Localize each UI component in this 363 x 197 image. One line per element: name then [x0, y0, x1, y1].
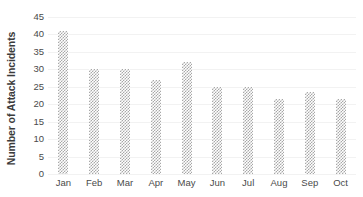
bar-series — [48, 17, 356, 174]
bar[interactable] — [274, 99, 284, 174]
y-axis-tick-label: 20 — [22, 99, 44, 109]
y-axis-tick-label: 25 — [22, 82, 44, 92]
y-axis-tick-label: 35 — [22, 47, 44, 57]
y-axis-tick-label: 45 — [22, 12, 44, 22]
x-axis-tick-label: Mar — [110, 176, 141, 192]
bar[interactable] — [89, 69, 99, 174]
bar[interactable] — [151, 80, 161, 174]
x-axis-tick-label: Oct — [325, 176, 356, 192]
gridline — [48, 174, 356, 175]
y-axis-tick-label: 5 — [22, 152, 44, 162]
bar[interactable] — [58, 31, 68, 174]
y-axis-title: Number of Attack Incidents — [0, 0, 22, 197]
plot-area — [48, 17, 356, 174]
bar-chart: Number of Attack Incidents 0510152025303… — [0, 0, 363, 197]
y-axis-tick-label: 40 — [22, 29, 44, 39]
x-axis-tick-label: Aug — [264, 176, 295, 192]
y-axis-tick-label: 15 — [22, 117, 44, 127]
y-axis-tick-label: 10 — [22, 134, 44, 144]
bar-slot — [325, 17, 356, 174]
bar[interactable] — [182, 62, 192, 174]
x-axis-tick-label: Jul — [233, 176, 264, 192]
bar-slot — [79, 17, 110, 174]
bar[interactable] — [336, 99, 346, 174]
x-axis-tick-label: Feb — [79, 176, 110, 192]
bar-slot — [233, 17, 264, 174]
x-axis-tick-label: Sep — [294, 176, 325, 192]
bar-slot — [264, 17, 295, 174]
bar-slot — [171, 17, 202, 174]
x-axis-tick-labels: JanFebMarAprMayJunJulAugSepOct — [48, 176, 356, 192]
bar-slot — [140, 17, 171, 174]
bar[interactable] — [243, 87, 253, 174]
bar-slot — [110, 17, 141, 174]
bar-slot — [48, 17, 79, 174]
bar-slot — [202, 17, 233, 174]
x-axis-tick-label: Apr — [140, 176, 171, 192]
x-axis-tick-label: Jun — [202, 176, 233, 192]
bar[interactable] — [212, 87, 222, 174]
bar[interactable] — [305, 92, 315, 174]
y-axis-tick-label: 30 — [22, 64, 44, 74]
bar-slot — [294, 17, 325, 174]
y-axis-tick-labels: 051015202530354045 — [22, 0, 44, 197]
y-axis-tick-label: 0 — [22, 169, 44, 179]
x-axis-tick-label: May — [171, 176, 202, 192]
bar[interactable] — [120, 69, 130, 174]
x-axis-tick-label: Jan — [48, 176, 79, 192]
